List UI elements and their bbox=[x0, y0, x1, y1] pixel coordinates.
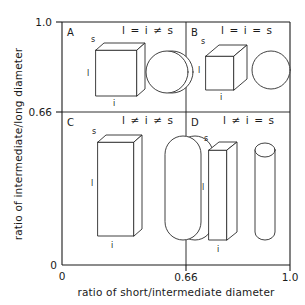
panel-a-slab bbox=[96, 43, 145, 96]
panel-d-label-s: s bbox=[204, 134, 208, 143]
panel-a-label-l: l bbox=[87, 69, 89, 78]
cylinder-top-ellipse bbox=[255, 143, 275, 157]
panel-d-relation: l ≠ i = s bbox=[223, 114, 275, 126]
panel-b-cube bbox=[206, 45, 247, 90]
panel-c-relation: l ≠ i ≠ s bbox=[122, 114, 174, 126]
panel-c: C l ≠ i ≠ s s l i bbox=[67, 114, 213, 250]
panel-c-label-l: l bbox=[91, 179, 93, 188]
disc-front-face bbox=[146, 51, 188, 93]
panel-d-letter: D bbox=[191, 117, 199, 128]
panel-c-blade bbox=[98, 135, 142, 236]
x-tick-label-mid: 0.66 bbox=[174, 271, 198, 283]
panel-a-label-s: s bbox=[91, 35, 95, 44]
panel-c-label-s: s bbox=[92, 127, 96, 136]
x-axis-title: ratio of short/intermediate diameter bbox=[77, 286, 275, 298]
zingg-shape-diagram: 1.0 0.66 0 0 0.66 1.0 ratio of short/int… bbox=[0, 0, 305, 305]
panel-a-label-i: i bbox=[113, 99, 115, 108]
panel-b-label-s: s bbox=[201, 37, 205, 46]
cylinder-body bbox=[255, 150, 275, 240]
blade-front-face bbox=[98, 142, 134, 236]
panel-b-label-l: l bbox=[198, 66, 200, 75]
panel-c-label-i: i bbox=[111, 241, 113, 250]
panel-d-label-l: l bbox=[202, 183, 204, 192]
blade-side-face bbox=[134, 135, 142, 236]
x-tick-label-max: 1.0 bbox=[282, 271, 299, 283]
panel-a-relation: l = i ≠ s bbox=[122, 24, 174, 36]
panel-d-cylinder bbox=[255, 143, 275, 240]
x-tick-label-zero: 0 bbox=[59, 270, 66, 282]
rod-side-face bbox=[227, 142, 237, 240]
panel-b-relation: l = i = s bbox=[221, 24, 273, 36]
panel-b: B l = i = s s l i bbox=[191, 24, 290, 102]
panel-c-ellipsoid bbox=[165, 136, 213, 240]
panel-d-rod bbox=[209, 142, 237, 240]
panel-a: A l = i ≠ s s l i bbox=[67, 24, 193, 108]
panel-a-letter: A bbox=[67, 27, 74, 38]
panel-b-sphere bbox=[252, 51, 290, 89]
panel-b-letter: B bbox=[191, 27, 198, 38]
slab-front-face bbox=[96, 50, 137, 96]
panel-c-letter: C bbox=[67, 117, 74, 128]
y-axis-title: ratio of intermediate/long diameter bbox=[12, 47, 24, 240]
slab-side-face bbox=[137, 43, 145, 96]
y-tick-label-top: 1.0 bbox=[35, 16, 52, 28]
panel-a-disc bbox=[146, 51, 193, 93]
figure-svg: 1.0 0.66 0 0 0.66 1.0 ratio of short/int… bbox=[0, 0, 305, 305]
panel-b-label-i: i bbox=[220, 93, 222, 102]
panel-d-label-i: i bbox=[217, 245, 219, 254]
ellipsoid-front-face bbox=[165, 136, 201, 240]
y-tick-label-mid: 0.66 bbox=[29, 106, 53, 118]
y-tick-label-zero: 0 bbox=[50, 259, 57, 271]
rod-front-face bbox=[209, 150, 227, 240]
cube-front-face bbox=[206, 56, 234, 90]
